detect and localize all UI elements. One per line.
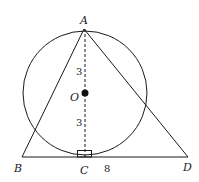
- measure-cd: 8: [104, 163, 110, 174]
- label-d: D: [182, 161, 192, 174]
- center-point-o: [82, 90, 89, 97]
- label-b: B: [13, 162, 22, 175]
- measure-oc: 3: [76, 117, 82, 128]
- label-a: A: [79, 14, 88, 27]
- geometry-figure: A O B C D 3 3 8: [0, 0, 199, 182]
- segment-ad: [84, 29, 188, 157]
- measure-ao: 3: [76, 66, 82, 77]
- label-c: C: [80, 164, 89, 177]
- label-o: O: [70, 91, 79, 104]
